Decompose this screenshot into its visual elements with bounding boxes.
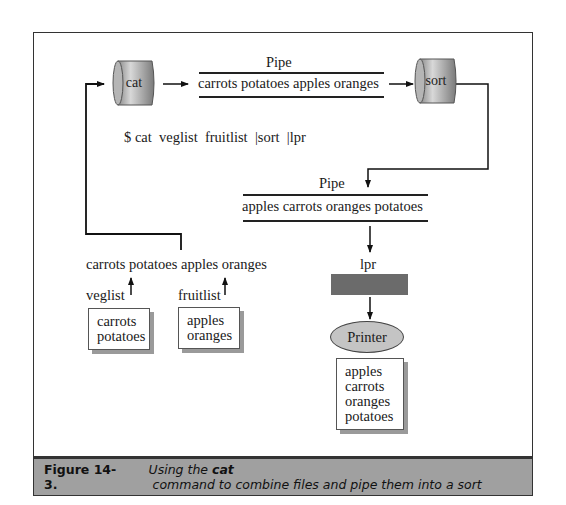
sort-label: sort	[414, 58, 458, 104]
caption-text-after: command to combine files and pipe them i…	[149, 477, 482, 492]
figure-number: Figure 14-3.	[44, 462, 123, 492]
veglist-label: veglist	[86, 287, 125, 304]
combined-output: carrots potatoes apples oranges	[86, 256, 267, 273]
command-text: cat veglist fruitlist |sort |lpr	[135, 129, 306, 145]
file-line: carrots	[97, 314, 141, 329]
caption-command: cat	[212, 462, 234, 477]
pipe1-content: carrots potatoes apples oranges	[198, 75, 379, 92]
file-line: apples	[187, 313, 231, 328]
caption-text-before: Using the	[149, 462, 212, 477]
file-line: oranges	[187, 328, 231, 343]
pipe1-top-line	[199, 72, 384, 74]
printout-line: oranges	[345, 394, 395, 409]
sort-process: sort	[414, 58, 458, 104]
printer-label: Printer	[347, 329, 386, 346]
caption-text: Using the cat command to combine files a…	[149, 462, 532, 492]
printout-line: carrots	[345, 379, 395, 394]
cat-label: cat	[112, 60, 156, 106]
lpr-label: lpr	[360, 256, 376, 273]
file-line: potatoes	[97, 329, 141, 344]
command-prompt: $	[124, 129, 131, 145]
printout: apples carrots oranges potatoes	[336, 358, 404, 430]
pipe1-label: Pipe	[266, 54, 292, 71]
veglist-file: carrots potatoes	[88, 308, 150, 350]
pipe2-label: Pipe	[319, 175, 345, 192]
lpr-bar	[331, 274, 408, 295]
fruitlist-label: fruitlist	[178, 287, 221, 304]
pipe2-content: apples carrots oranges potatoes	[242, 198, 423, 215]
fruitlist-file: apples oranges	[178, 307, 240, 349]
printer: Printer	[330, 321, 404, 353]
pipe2-bottom-line	[243, 220, 428, 222]
command-line: $ cat veglist fruitlist |sort |lpr	[124, 129, 306, 146]
cat-process: cat	[112, 60, 156, 106]
printout-line: apples	[345, 364, 395, 379]
pipe1-bottom-line	[199, 96, 384, 98]
figure-caption: Figure 14-3. Using the cat command to co…	[33, 456, 533, 496]
printout-line: potatoes	[345, 409, 395, 424]
pipe2-top-line	[243, 194, 428, 196]
